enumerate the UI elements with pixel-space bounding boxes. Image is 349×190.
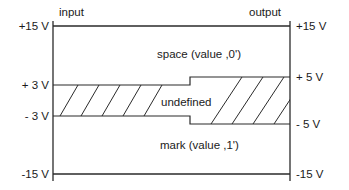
hatch-pattern-input bbox=[60, 85, 162, 116]
output-label: output bbox=[249, 6, 282, 18]
space-region-label: space (value ,0') bbox=[157, 48, 241, 60]
mark-region-label: mark (value ,1') bbox=[160, 139, 239, 151]
left-label-plus15v: +15 V bbox=[19, 20, 50, 32]
right-label-plus15v: +15 V bbox=[296, 20, 327, 32]
right-label-plus5v: + 5 V bbox=[296, 71, 324, 83]
right-label-minus5v: - 5 V bbox=[296, 118, 321, 130]
left-label-plus3v: + 3 V bbox=[22, 79, 50, 91]
undefined-region-label: undefined bbox=[161, 96, 212, 108]
signal-level-diagram: input output +15 V + 3 V - 3 V -15 V +15… bbox=[0, 0, 349, 190]
undefined-band-lower-edge bbox=[53, 116, 290, 124]
hatch-pattern-output bbox=[211, 77, 305, 124]
right-label-minus15v: -15 V bbox=[296, 168, 324, 180]
left-label-minus3v: - 3 V bbox=[25, 110, 50, 122]
undefined-band-upper-edge bbox=[53, 77, 290, 85]
input-label: input bbox=[59, 6, 85, 18]
left-label-minus15v: -15 V bbox=[22, 168, 50, 180]
